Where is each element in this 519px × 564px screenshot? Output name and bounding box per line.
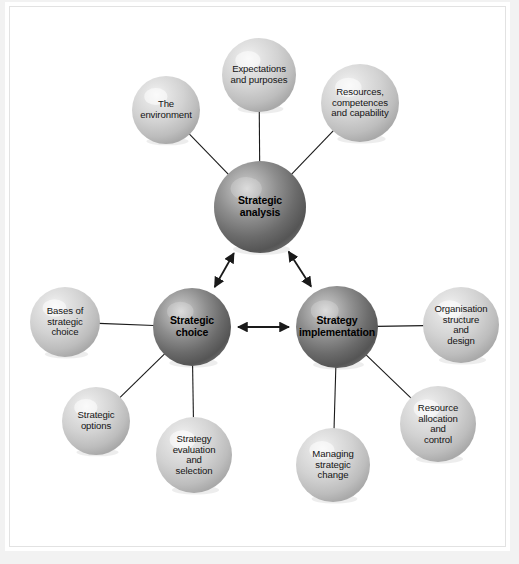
node-resource-allocation-and-control: [400, 386, 476, 464]
connector-env-to-analysis: [189, 134, 229, 175]
node-strategic-analysis: [214, 161, 306, 255]
connector-resource-alloc-to-implementation: [366, 355, 411, 399]
node-sphere-core: [153, 288, 231, 366]
node-highlight: [235, 51, 260, 69]
node-sphere-satellite: [62, 387, 130, 455]
node-highlight: [311, 300, 339, 321]
connector-change-to-implementation: [334, 367, 336, 429]
connector-bases-to-choice: [99, 323, 154, 325]
node-highlight: [437, 300, 463, 319]
node-highlight: [144, 88, 167, 105]
node-sphere-core: [214, 161, 306, 253]
node-sphere-satellite: [296, 428, 370, 502]
connector-resources-to-analysis: [291, 130, 333, 174]
node-highlight: [43, 299, 67, 317]
node-strategic-options: [62, 387, 130, 456]
connector-analysis-implementation: [289, 252, 311, 287]
node-sphere-core: [296, 286, 378, 368]
node-sphere-satellite: [156, 417, 232, 493]
satellite-connector-layer: [99, 111, 424, 429]
strategy-diagram: [0, 0, 519, 564]
node-expectations-and-purposes: [222, 38, 296, 113]
node-sphere-satellite: [132, 76, 200, 144]
satellite-node-layer: [30, 38, 499, 503]
node-strategic-choice: [153, 288, 231, 368]
figure-root: The environmentExpectations and purposes…: [0, 0, 519, 564]
node-sphere-satellite: [222, 38, 296, 112]
node-bases-of-strategic-choice: [30, 287, 100, 358]
node-managing-strategic-change: [296, 428, 370, 503]
connector-evaluation-to-choice: [193, 365, 194, 418]
node-sphere-satellite: [30, 287, 100, 357]
connector-analysis-choice: [215, 253, 234, 287]
node-sphere-satellite: [321, 64, 399, 142]
node-highlight: [309, 441, 334, 460]
node-highlight: [74, 399, 97, 416]
connector-options-to-choice: [120, 354, 165, 398]
connector-org-structure-to-implementation: [377, 326, 424, 327]
node-highlight: [231, 177, 262, 200]
node-strategy-implementation: [296, 286, 378, 370]
node-highlight: [414, 399, 440, 418]
node-highlight: [335, 78, 362, 98]
core-node-layer: [153, 161, 378, 370]
node-sphere-satellite: [400, 386, 476, 462]
node-highlight: [170, 430, 196, 449]
node-highlight: [167, 302, 194, 322]
node-strategy-evaluation-and-selection: [156, 417, 232, 495]
node-sphere-satellite: [423, 287, 499, 363]
node-organisation-structure-and-design: [423, 287, 499, 365]
